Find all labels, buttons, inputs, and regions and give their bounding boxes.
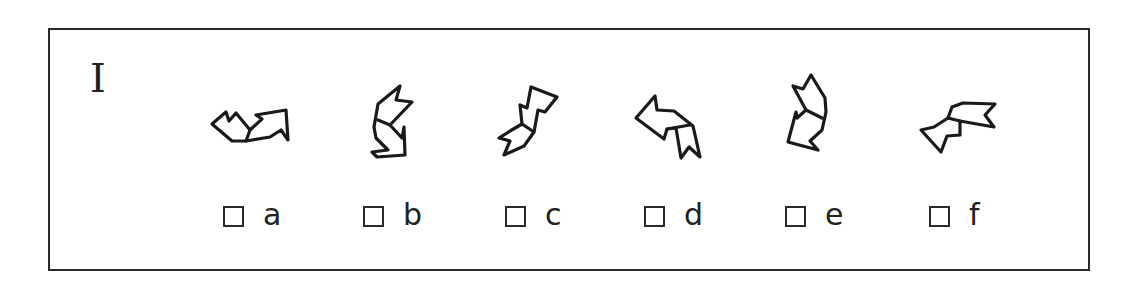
checkbox-b[interactable]: [363, 206, 384, 227]
figure-a-bent-arrow-icon: [212, 110, 288, 141]
checkbox-e[interactable]: [785, 206, 806, 227]
checkbox-a[interactable]: [223, 206, 244, 227]
figure-f-bent-arrow-icon: [921, 103, 995, 152]
option-b[interactable]: b: [363, 200, 422, 230]
option-label-b: b: [403, 200, 422, 230]
option-f[interactable]: f: [929, 200, 980, 230]
option-e[interactable]: e: [785, 200, 843, 230]
checkbox-d[interactable]: [644, 206, 665, 227]
option-a[interactable]: a: [223, 200, 281, 230]
figure-b-bent-arrow-icon: [372, 86, 412, 157]
option-label-f: f: [969, 200, 980, 230]
option-label-a: a: [263, 200, 281, 230]
option-label-d: d: [684, 200, 703, 230]
option-label-c: c: [545, 200, 562, 230]
checkbox-c[interactable]: [505, 206, 526, 227]
option-d[interactable]: d: [644, 200, 703, 230]
figure-e-bent-arrow-icon: [788, 75, 826, 150]
option-label-e: e: [825, 200, 843, 230]
option-c[interactable]: c: [505, 200, 562, 230]
figure-d-bent-arrow-icon: [636, 96, 700, 158]
checkbox-f[interactable]: [929, 206, 950, 227]
figure-c-bent-arrow-icon: [499, 87, 557, 155]
